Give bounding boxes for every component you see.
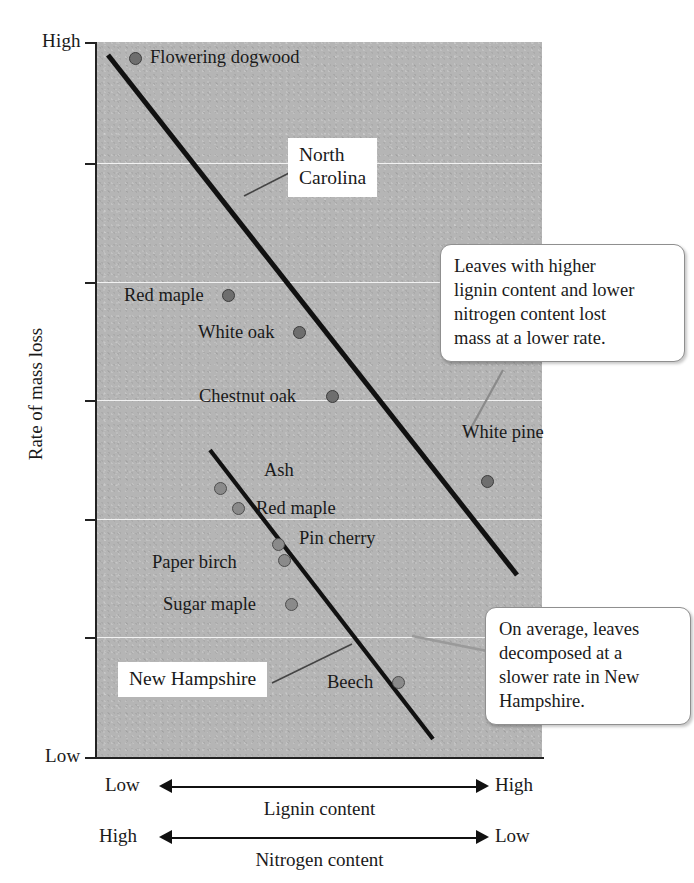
nitrogen-axis-low-label: Low: [495, 825, 530, 847]
nitrogen-axis-title: Nitrogen content: [97, 849, 542, 871]
leader-north-carolina: [244, 172, 291, 196]
decomposition-callout: On average, leaves decomposed at a slowe…: [485, 607, 691, 725]
north-carolina-label: North Carolina: [288, 138, 377, 197]
overlay-vectors: [0, 0, 694, 883]
nitrogen-axis-row: High Low Nitrogen content: [97, 824, 542, 854]
point-red-maple-nh[interactable]: [232, 502, 245, 515]
label-red-maple-nc: Red maple: [124, 285, 204, 306]
figure-root: High Low Rate of mass loss Flowering dog…: [0, 0, 694, 883]
label-sugar-maple: Sugar maple: [163, 594, 256, 615]
point-chestnut-oak[interactable]: [326, 390, 339, 403]
point-sugar-maple[interactable]: [285, 598, 298, 611]
label-white-pine: White pine: [462, 423, 544, 442]
lignin-axis-title: Lignin content: [97, 798, 542, 820]
point-white-oak[interactable]: [293, 326, 306, 339]
point-ash[interactable]: [214, 482, 227, 495]
label-beech: Beech: [327, 672, 373, 693]
point-paper-birch[interactable]: [278, 554, 291, 567]
new-hampshire-label: New Hampshire: [118, 662, 267, 697]
lignin-arrow-right-icon: [476, 779, 489, 793]
leader-decomposition-callout: [412, 636, 487, 651]
label-white-oak: White oak: [198, 322, 275, 343]
nitrogen-arrow-right-icon: [476, 830, 489, 844]
label-pin-cherry: Pin cherry: [299, 528, 376, 549]
label-paper-birch: Paper birch: [152, 552, 237, 573]
label-flowering-dogwood: Flowering dogwood: [150, 47, 300, 68]
lignin-axis-row: Low High Lignin content: [97, 773, 542, 803]
point-red-maple-nc[interactable]: [222, 289, 235, 302]
lignin-axis-low-label: Low: [105, 774, 140, 796]
nitrogen-axis-high-label: High: [99, 825, 137, 847]
nitrogen-axis-line: [171, 837, 476, 839]
label-ash: Ash: [264, 460, 294, 481]
point-white-pine[interactable]: [481, 475, 494, 488]
label-red-maple-nh: Red maple: [256, 498, 336, 519]
point-pin-cherry[interactable]: [272, 538, 285, 551]
point-beech[interactable]: [392, 676, 405, 689]
label-chestnut-oak: Chestnut oak: [199, 386, 296, 407]
lignin-callout: Leaves with higher lignin content and lo…: [440, 244, 685, 362]
lignin-axis-high-label: High: [495, 774, 533, 796]
lignin-axis-line: [171, 786, 476, 788]
point-flowering-dogwood[interactable]: [129, 52, 142, 65]
